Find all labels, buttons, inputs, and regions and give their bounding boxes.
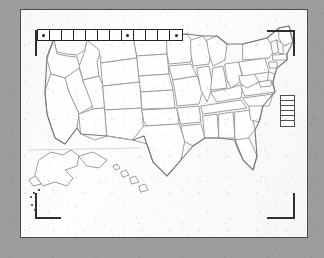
us-map[interactable] [21, 10, 308, 238]
app-window [0, 0, 324, 258]
tool-button-3[interactable] [62, 30, 74, 40]
map-inset-hawaii [113, 164, 148, 192]
bracket-tr-horizontal [267, 30, 295, 32]
bracket-br-horizontal [267, 217, 295, 219]
bracket-tr-vertical [293, 30, 295, 56]
tool-button-9[interactable] [134, 30, 146, 40]
tool-button-6[interactable] [98, 30, 110, 40]
map-legend[interactable] [280, 94, 293, 127]
map-marker-dot [30, 196, 32, 198]
map-marker-dot [38, 189, 40, 191]
legend-swatch-stack[interactable] [280, 95, 295, 127]
map-marker-dot [34, 209, 36, 211]
map-inset-alaska [29, 150, 107, 186]
map-marker-dots [29, 189, 43, 215]
tool-button-12[interactable] [170, 30, 182, 40]
bracket-bl-horizontal [35, 217, 61, 219]
crop-bracket-bottom-right [267, 193, 295, 219]
tool-button-10[interactable] [146, 30, 158, 40]
tool-button-8[interactable] [122, 30, 134, 40]
map-marker-dot [31, 204, 33, 206]
map-states [45, 26, 293, 176]
map-canvas[interactable] [20, 9, 308, 238]
map-tool-palette[interactable] [37, 29, 183, 41]
tool-button-1[interactable] [38, 30, 50, 40]
map-marker-dot [35, 199, 37, 201]
bracket-br-vertical [293, 193, 295, 219]
crop-bracket-top-right [267, 30, 295, 56]
tool-button-11[interactable] [158, 30, 170, 40]
legend-swatch[interactable] [281, 121, 294, 126]
tool-button-5[interactable] [86, 30, 98, 40]
tool-button-2[interactable] [50, 30, 62, 40]
tool-button-4[interactable] [74, 30, 86, 40]
map-marker-dot [33, 192, 35, 194]
tool-button-7[interactable] [110, 30, 122, 40]
